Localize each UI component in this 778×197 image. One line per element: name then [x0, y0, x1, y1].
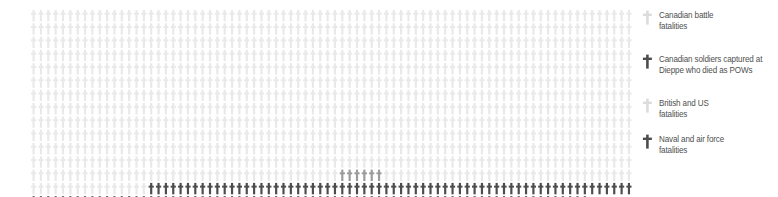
cross-icon [325, 103, 330, 114]
cross-icon [207, 63, 212, 74]
cross-icon [90, 116, 95, 127]
cross-icon [376, 156, 381, 167]
cross-icon [340, 23, 345, 34]
cross-icon [68, 77, 73, 88]
cross-icon [31, 77, 36, 88]
cross-icon [354, 37, 359, 48]
cross-icon [105, 170, 110, 181]
cross-icon [590, 50, 595, 61]
cross-icon [384, 50, 389, 61]
cross-icon [384, 10, 389, 21]
legend-item-naval-air-force-fatalities[interactable]: Naval and air force fatalities [642, 134, 778, 157]
cross-icon [252, 77, 257, 88]
cross-icon [200, 116, 205, 127]
cross-icon [399, 183, 404, 194]
cross-icon [127, 23, 132, 34]
cross-icon [568, 90, 573, 101]
cross-icon [354, 90, 359, 101]
cross-icon [494, 130, 499, 141]
cross-icon [259, 130, 264, 141]
cross-icon [516, 130, 521, 141]
cross-icon [369, 37, 374, 48]
legend: Canadian battle fatalities Canadian sold… [642, 6, 778, 166]
cross-icon [487, 10, 492, 21]
cross-icon [112, 116, 117, 127]
cross-icon [399, 23, 404, 34]
cross-icon [428, 130, 433, 141]
cross-icon [443, 143, 448, 154]
cross-icon [318, 50, 323, 61]
cross-icon [553, 143, 558, 154]
cross-icon [207, 77, 212, 88]
cross-icon [340, 183, 345, 194]
cross-icon [274, 196, 279, 197]
cross-icon [590, 156, 595, 167]
cross-icon [590, 170, 595, 181]
cross-icon [340, 37, 345, 48]
cross-icon [582, 103, 587, 114]
cross-icon [450, 170, 455, 181]
cross-icon [590, 116, 595, 127]
cross-icon [399, 50, 404, 61]
cross-icon [185, 143, 190, 154]
cross-icon [604, 170, 609, 181]
cross-icon [472, 90, 477, 101]
cross-icon [60, 143, 65, 154]
cross-icon [384, 77, 389, 88]
cross-icon [156, 156, 161, 167]
cross-icon [553, 50, 558, 61]
cross-icon [479, 196, 484, 197]
cross-icon [516, 77, 521, 88]
cross-icon [259, 116, 264, 127]
cross-icon [590, 10, 595, 21]
cross-icon [207, 196, 212, 197]
cross-icon [46, 37, 51, 48]
cross-icon [200, 77, 205, 88]
cross-icon [487, 196, 492, 197]
cross-icon [171, 23, 176, 34]
cross-icon [546, 50, 551, 61]
cross-icon [112, 183, 117, 194]
cross-icon [399, 90, 404, 101]
legend-item-canadian-battle-fatalities[interactable]: Canadian battle fatalities [642, 10, 778, 33]
cross-icon [582, 143, 587, 154]
cross-icon [149, 50, 154, 61]
cross-icon [421, 156, 426, 167]
cross-icon [163, 156, 168, 167]
cross-icon [421, 183, 426, 194]
cross-icon [487, 130, 492, 141]
cross-icon [435, 37, 440, 48]
cross-icon [435, 103, 440, 114]
cross-icon [413, 143, 418, 154]
cross-icon [193, 103, 198, 114]
cross-icon [516, 63, 521, 74]
cross-icon [340, 116, 345, 127]
cross-icon [303, 50, 308, 61]
cross-icon [60, 156, 65, 167]
cross-icon [112, 63, 117, 74]
legend-item-british-us-fatalities[interactable]: British and US fatalities [642, 98, 778, 121]
cross-icon [384, 143, 389, 154]
cross-icon [465, 116, 470, 127]
cross-icon [501, 196, 506, 197]
cross-icon [325, 10, 330, 21]
cross-icon [619, 130, 624, 141]
cross-icon [105, 130, 110, 141]
cross-icon [391, 90, 396, 101]
cross-icon [244, 50, 249, 61]
cross-icon [127, 196, 132, 197]
cross-icon [266, 130, 271, 141]
cross-icon [546, 130, 551, 141]
cross-icon [296, 37, 301, 48]
cross-icon [60, 90, 65, 101]
cross-icon [523, 183, 528, 194]
cross-icon [149, 90, 154, 101]
cross-icon [325, 116, 330, 127]
cross-icon [38, 196, 43, 197]
cross-icon [193, 116, 198, 127]
cross-icon [185, 50, 190, 61]
legend-item-canadian-pow-dieppe[interactable]: Canadian soldiers captured at Dieppe who… [642, 54, 778, 77]
cross-icon [112, 23, 117, 34]
cross-icon [288, 10, 293, 21]
cross-icon [156, 63, 161, 74]
